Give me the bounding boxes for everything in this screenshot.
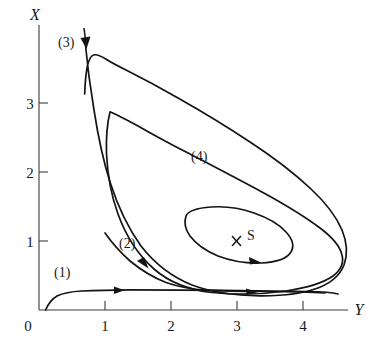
inner-loop-path [185,207,293,263]
trajectory-1-path [46,290,338,310]
x-tick-label-4: 4 [299,318,307,334]
curve-label-1: (1) [54,265,71,281]
y-tick-label-1: 1 [26,234,34,250]
steady-state-marker [232,236,241,246]
phase-plot-svg: 0 1 2 3 4 1 2 3 Y X [0,0,376,343]
curve-label-2: (2) [119,236,136,252]
axes-group [39,25,348,310]
x-tick-label-1: 1 [101,318,109,334]
x-tick-label-3: 3 [233,318,241,334]
y-tick-label-3: 3 [26,96,34,112]
trajectory-3-path [85,41,347,296]
phase-plane-figure: 0 1 2 3 4 1 2 3 Y X [0,0,376,343]
y-axis-ticks [39,103,48,241]
y-axis-title: X [29,6,41,23]
x-axis-title: Y [355,301,366,318]
trajectories-group [46,28,347,310]
trajectory-4-path [106,112,342,294]
curve-label-4: (4) [191,149,208,165]
steady-state-label: S [247,228,255,243]
y-tick-label-2: 2 [26,165,34,181]
trajectory-3-entry-arrow [81,28,91,49]
origin-tick-label: 0 [24,318,32,334]
trajectory-1-arrowhead [114,287,125,295]
x-tick-label-2: 2 [167,318,175,334]
x-axis-ticks [105,301,303,310]
curve-label-3: (3) [58,35,75,51]
